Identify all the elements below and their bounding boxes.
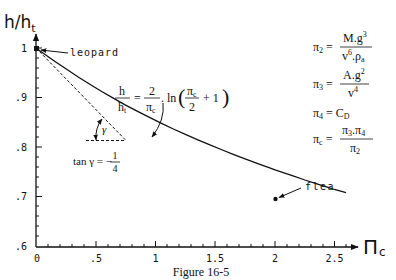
svg-text:v4: v4 <box>348 85 358 100</box>
svg-text:. ln: . ln <box>161 91 176 105</box>
gamma-label: γ <box>102 123 107 135</box>
svg-text:2.5: 2.5 <box>325 253 343 264</box>
svg-text:1: 1 <box>152 253 158 264</box>
svg-text:h: h <box>119 84 125 98</box>
svg-text:2: 2 <box>189 100 195 114</box>
x-ticks <box>48 241 346 247</box>
svg-text:ht: ht <box>118 100 127 115</box>
svg-text:πc: πc <box>187 84 197 99</box>
svg-text:.9: .9 <box>15 92 27 103</box>
y-axis-label: h/ht <box>4 12 36 35</box>
svg-text:.6: .6 <box>15 241 27 252</box>
svg-text:1.5: 1.5 <box>206 253 224 264</box>
svg-text:π2 =: π2 = <box>313 40 333 55</box>
svg-text:): ) <box>222 84 229 109</box>
leopard-point <box>34 46 39 51</box>
y-tick-labels: 1 .9 .8 .7 .6 <box>15 43 27 252</box>
flea-point <box>273 197 277 201</box>
x-tick-labels: 0 .5 1 1.5 2 2.5 <box>34 253 344 264</box>
svg-text:M.g3: M.g3 <box>343 30 367 45</box>
svg-text:v6.ρa: v6.ρa <box>342 48 365 64</box>
pi-definitions: π2 = M.g3 v6.ρa π3 = A.g2 v4 π4 = CD πc … <box>313 30 373 156</box>
svg-text:πc =: πc = <box>313 132 333 147</box>
tan-gamma-label: tan γ = − 1 4 <box>73 150 120 174</box>
leopard-label: leopard <box>70 47 119 58</box>
x-axis-label: Πc <box>363 235 386 259</box>
svg-text:π3.π4: π3.π4 <box>342 123 365 138</box>
svg-text:1: 1 <box>21 43 27 54</box>
svg-text:4: 4 <box>113 163 118 174</box>
svg-text:1: 1 <box>113 150 118 161</box>
figure-caption: Figure 16-5 <box>173 265 229 279</box>
tangent-line <box>36 48 126 141</box>
flea-arrow <box>279 188 301 198</box>
svg-text:2: 2 <box>272 253 278 264</box>
svg-text:2: 2 <box>149 84 155 98</box>
svg-text:π3 =: π3 = <box>313 77 333 92</box>
svg-text:+ 1: + 1 <box>203 91 219 105</box>
svg-text:π4 = CD: π4 = CD <box>313 106 350 121</box>
curve <box>36 48 346 193</box>
svg-text:.8: .8 <box>15 142 27 153</box>
svg-text:0: 0 <box>34 253 40 264</box>
svg-text:.7: .7 <box>15 191 27 202</box>
svg-text:πc: πc <box>146 100 156 115</box>
svg-text:=: = <box>134 91 141 105</box>
leopard-arrow <box>41 50 68 53</box>
svg-text:π2: π2 <box>350 141 360 156</box>
flea-label: flea <box>305 181 335 192</box>
svg-text:tan γ = −: tan γ = − <box>73 155 112 167</box>
svg-text:A.g2: A.g2 <box>343 67 365 82</box>
curve-equation: h ht = 2 πc . ln ( πc 2 + 1 ) <box>115 84 229 115</box>
y-ticks <box>36 48 42 236</box>
svg-text:.5: .5 <box>90 253 102 264</box>
svg-text:(: ( <box>178 84 185 109</box>
chart: h/ht 1 .9 .8 .7 .6 <box>0 0 396 280</box>
